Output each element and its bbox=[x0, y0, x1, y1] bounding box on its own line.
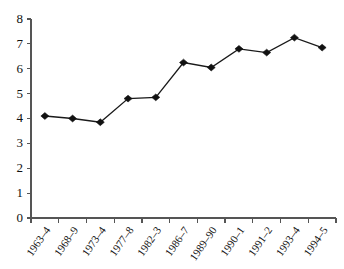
chart-canvas: 012345678 1963–41968–91973–41977–81982–3… bbox=[0, 0, 344, 269]
data-point-marker bbox=[290, 34, 298, 41]
x-tick-label: 1989–90 bbox=[187, 224, 219, 263]
x-tick-label: 1994–5 bbox=[301, 224, 330, 258]
data-point-marker bbox=[318, 44, 326, 51]
x-tick-label: 1977–8 bbox=[107, 224, 136, 258]
y-tick-label: 0 bbox=[17, 210, 24, 225]
series-1-line bbox=[45, 38, 322, 123]
y-axis-group: 012345678 bbox=[17, 11, 32, 225]
data-series-group bbox=[41, 34, 326, 125]
y-tick-label: 6 bbox=[17, 61, 24, 76]
x-tick-label: 1993–4 bbox=[273, 224, 302, 258]
x-tick-label: 1982–3 bbox=[135, 224, 164, 258]
data-point-marker bbox=[69, 115, 77, 122]
x-tick-label: 1973–4 bbox=[79, 224, 108, 258]
data-point-marker bbox=[263, 49, 271, 56]
x-tick-label: 1968–9 bbox=[51, 224, 80, 258]
x-tick-labels: 1963–41968–91973–41977–81982–31986–71989… bbox=[24, 224, 330, 263]
data-point-marker bbox=[180, 59, 188, 66]
y-tick-label: 5 bbox=[17, 86, 24, 101]
x-tick-label: 1991–2 bbox=[246, 224, 275, 258]
series-1-markers bbox=[41, 34, 326, 125]
y-tick-label: 3 bbox=[17, 135, 24, 150]
y-tick-label: 4 bbox=[17, 110, 24, 125]
y-tick-label: 8 bbox=[17, 11, 24, 26]
y-tick-label: 7 bbox=[17, 36, 24, 51]
y-tick-label: 1 bbox=[17, 185, 24, 200]
line-chart: 012345678 1963–41968–91973–41977–81982–3… bbox=[0, 0, 344, 269]
x-axis-group: 1963–41968–91973–41977–81982–31986–71989… bbox=[24, 218, 336, 263]
data-point-marker bbox=[41, 113, 49, 120]
x-tick-label: 1990–1 bbox=[218, 224, 247, 258]
y-tick-labels: 012345678 bbox=[17, 11, 24, 225]
x-tick-label: 1963–4 bbox=[24, 224, 53, 258]
y-tick-label: 2 bbox=[17, 160, 24, 175]
data-point-marker bbox=[152, 94, 160, 101]
x-tick-label: 1986–7 bbox=[162, 224, 191, 258]
